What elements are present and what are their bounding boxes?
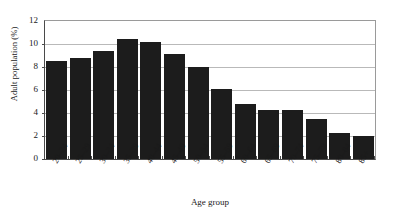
x-tickmark — [303, 156, 304, 160]
x-tickmark — [115, 156, 116, 160]
x-tickmark — [91, 156, 92, 160]
x-tickmark — [350, 156, 351, 160]
x-tickmark — [256, 156, 257, 160]
y-tick-label: 8 — [16, 62, 38, 71]
y-tick-label: 2 — [16, 131, 38, 140]
bar — [140, 42, 161, 159]
x-tickmark — [233, 156, 234, 160]
y-tick-label: 12 — [16, 16, 38, 25]
bar-chart: Adult population (%) 024681012 20–2425–2… — [0, 0, 395, 216]
y-tick-label: 10 — [16, 39, 38, 48]
bar-series — [45, 21, 375, 159]
y-axis-tick-labels: 024681012 — [14, 0, 38, 216]
x-axis-tick-labels: 20–2425–2930–3435–3940–4445–4950–5455–59… — [44, 160, 376, 200]
x-tickmark — [374, 156, 375, 160]
x-tickmark — [327, 156, 328, 160]
x-tickmark — [185, 156, 186, 160]
y-tick-label: 4 — [16, 108, 38, 117]
plot-area — [44, 20, 376, 160]
y-tick-label: 0 — [16, 154, 38, 163]
y-tick-label: 6 — [16, 85, 38, 94]
x-tickmark — [209, 156, 210, 160]
x-tickmark — [162, 156, 163, 160]
x-tickmark — [68, 156, 69, 160]
x-axis-title: Age group — [44, 197, 376, 207]
x-tickmark — [280, 156, 281, 160]
x-tickmark — [138, 156, 139, 160]
bar — [117, 39, 138, 159]
